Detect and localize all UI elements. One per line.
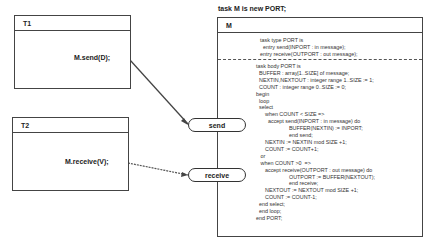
task-spec-code: task type PORT is entry send(INPORT : in…	[260, 37, 357, 58]
server-task-m-box: M task type PORT is entry send(INPORT : …	[217, 17, 423, 237]
task-t2-name: T2	[13, 118, 128, 133]
task-t1-name: T1	[15, 16, 130, 31]
send-arrow	[130, 60, 188, 124]
task-t1-box: T1 M.send(D);	[14, 15, 131, 89]
task-body-code: task body PORT is BUFFER : array[1..SIZE…	[256, 63, 375, 222]
server-task-name: M	[218, 18, 422, 33]
diagram-title: task M is new PORT;	[218, 5, 286, 12]
entry-receive: receive	[188, 168, 246, 182]
entry-send: send	[188, 118, 246, 132]
task-t2-box: T2 M.receive(V);	[12, 117, 129, 191]
task-t1-call: M.send(D);	[74, 54, 110, 61]
spec-body-divider	[218, 59, 422, 60]
receive-arrow	[128, 163, 188, 175]
task-t2-call: M.receive(V);	[65, 158, 109, 165]
